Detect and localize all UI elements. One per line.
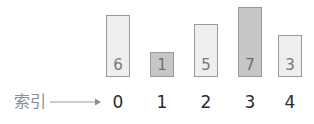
index-label-3: 3 [245,94,256,111]
index-slot-1: 1 [139,80,185,124]
index-label-4: 4 [285,94,296,111]
bar-4[interactable]: 3 [278,35,302,77]
index-slot-2: 2 [183,80,229,124]
bar-1[interactable]: 1 [150,52,174,77]
bar-value-1: 1 [157,58,167,76]
bar-slot-2: 5 [183,0,229,80]
bar-value-3: 7 [245,58,255,76]
bar-slot-0: 6 [95,0,141,80]
index-slot-4: 4 [267,80,313,124]
bar-value-4: 3 [285,58,295,76]
index-label-1: 1 [157,94,168,111]
bar-slot-1: 1 [139,0,185,80]
arrow-right-icon [50,96,102,108]
bar-value-0: 6 [113,58,123,76]
bar-3[interactable]: 7 [238,7,262,77]
bar-value-2: 5 [201,58,211,76]
bars-area: 6 1 5 7 3 [0,0,314,80]
array-bar-diagram: 6 1 5 7 3 0 1 [0,0,314,124]
bar-2[interactable]: 5 [194,24,218,77]
index-label-2: 2 [201,94,212,111]
index-label-0: 0 [113,94,124,111]
axis-caption: 索引 [14,88,102,116]
axis-caption-label: 索引 [14,94,46,110]
bar-0[interactable]: 6 [106,15,130,77]
bar-slot-4: 3 [267,0,313,80]
